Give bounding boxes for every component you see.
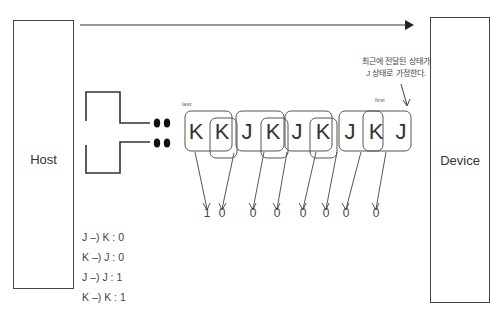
signal-letter: J xyxy=(235,120,259,144)
signal-letter: K xyxy=(210,120,234,144)
annotation-line-1: 최근에 전달된 상태가 xyxy=(341,56,451,68)
annotation-arrow xyxy=(401,84,410,106)
signal-letter: K xyxy=(261,120,285,144)
output-bit: 0 xyxy=(247,206,259,220)
last-label: last xyxy=(182,101,191,107)
annotation-line-2: J 상태로 가정한다. xyxy=(341,68,451,80)
output-bit: 0 xyxy=(370,206,382,220)
output-bit: 0 xyxy=(271,206,283,220)
signal-letter: J xyxy=(338,120,362,144)
signal-letter: K xyxy=(364,120,388,144)
output-bit: 1 xyxy=(201,206,213,220)
output-bit: 0 xyxy=(320,206,332,220)
rule-k-to-k: K –) K : 1 xyxy=(82,291,126,303)
rule-k-to-j: K –) J : 0 xyxy=(82,251,124,263)
connector-dots xyxy=(154,119,170,148)
direction-arrow xyxy=(80,20,414,30)
annotation-note: 최근에 전달된 상태가 J 상태로 가정한다. xyxy=(341,56,451,80)
connector-shape xyxy=(86,92,150,173)
signal-letter: J xyxy=(285,120,309,144)
output-bit: 0 xyxy=(297,206,309,220)
rule-j-to-j: J –) J : 1 xyxy=(82,271,122,283)
rule-j-to-k: J –) K : 0 xyxy=(82,231,124,243)
transition-arrows xyxy=(195,152,386,210)
signal-letter: J xyxy=(389,120,413,144)
output-bit: 0 xyxy=(216,206,228,220)
first-label: first xyxy=(375,97,385,103)
diagram-lines xyxy=(0,0,504,317)
output-bit: 0 xyxy=(340,206,352,220)
signal-letter: K xyxy=(184,120,208,144)
signal-letter: K xyxy=(311,120,335,144)
